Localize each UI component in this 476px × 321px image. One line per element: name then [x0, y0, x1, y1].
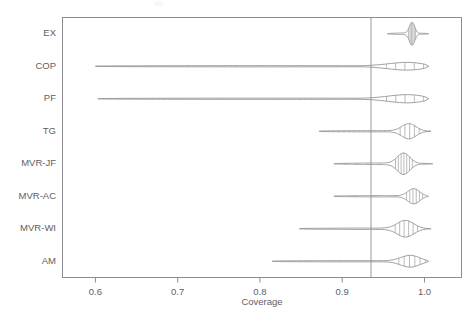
x-tick-label-1.0: 1.0	[418, 286, 431, 297]
y-axis-tick-labels: EXCOPPFTGMVR-JFMVR-ACMVR-WIAM	[19, 27, 57, 265]
violin-tg	[319, 124, 431, 139]
y-tick-label-mvr-jf: MVR-JF	[21, 157, 56, 168]
violin-cop	[95, 62, 428, 70]
violin-pf	[98, 95, 429, 103]
chart-canvas: EXCOPPFTGMVR-JFMVR-ACMVR-WIAM 0.60.70.80…	[0, 0, 476, 321]
violin-mvr-wi	[299, 220, 431, 237]
violin-series-group	[95, 22, 432, 267]
plot-frame	[63, 18, 462, 278]
violin-mvr-ac	[334, 189, 429, 204]
y-tick-label-cop: COP	[35, 60, 56, 71]
y-tick-label-mvr-wi: MVR-WI	[20, 222, 56, 233]
x-tick-label-0.7: 0.7	[171, 286, 184, 297]
violin-am	[272, 255, 428, 267]
x-axis-tick-group: 0.60.70.80.91.0	[89, 278, 431, 297]
x-tick-label-0.8: 0.8	[253, 286, 266, 297]
x-axis-title: Coverage	[241, 296, 282, 307]
violin-mvr-jf	[334, 153, 433, 175]
x-tick-label-0.9: 0.9	[336, 286, 349, 297]
y-tick-label-ex: EX	[43, 27, 56, 38]
x-tick-label-0.6: 0.6	[89, 286, 102, 297]
y-tick-label-pf: PF	[44, 92, 56, 103]
coverage-violin-chart: EXCOPPFTGMVR-JFMVR-ACMVR-WIAM 0.60.70.80…	[0, 0, 476, 321]
violin-ex	[387, 22, 428, 45]
y-tick-label-am: AM	[42, 255, 56, 266]
y-tick-label-mvr-ac: MVR-AC	[19, 190, 57, 201]
y-tick-label-tg: TG	[43, 125, 56, 136]
scan-artifact	[154, 1, 163, 6]
